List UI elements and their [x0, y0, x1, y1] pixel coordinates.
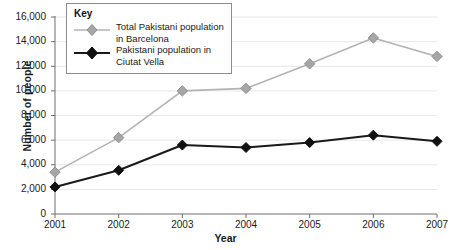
data-point [114, 165, 124, 175]
legend-label-total-barcelona: Total Pakistani population in Barcelona [116, 21, 232, 44]
x-axis-title: Year [0, 232, 451, 244]
data-point [432, 136, 442, 146]
y-tick-label: 12,000 [0, 60, 46, 71]
y-tick-label: 4,000 [0, 158, 46, 169]
data-point [50, 167, 60, 177]
legend-title: Key [74, 8, 92, 19]
data-point [305, 138, 315, 148]
line-chart: Number of people Year 02,0004,0006,0008,… [0, 0, 451, 250]
legend-swatch-black-diamond [74, 46, 110, 60]
y-tick-label: 2,000 [0, 183, 46, 194]
y-tick-label: 8,000 [0, 109, 46, 120]
legend-label-line2: Ciutat Vella [116, 56, 232, 68]
data-point [304, 59, 314, 69]
y-tick-label: 16,000 [0, 11, 46, 22]
data-point [432, 51, 442, 61]
x-tick-label: 2005 [288, 219, 332, 230]
data-point [368, 130, 378, 140]
legend-label-line1: Pakistani population in [116, 44, 232, 56]
x-tick-label: 2001 [33, 219, 77, 230]
y-tick-label: 0 [0, 208, 46, 219]
y-tick-label: 14,000 [0, 35, 46, 46]
data-point [241, 143, 251, 153]
data-point [177, 140, 187, 150]
data-point [241, 83, 251, 93]
legend-label-ciutat-vella: Pakistani population in Ciutat Vella [116, 44, 232, 67]
x-tick-label: 2002 [97, 219, 141, 230]
legend-label-line1: Total Pakistani population [116, 21, 232, 33]
x-tick-label: 2006 [351, 219, 395, 230]
x-tick-label: 2004 [224, 219, 268, 230]
y-tick-label: 6,000 [0, 134, 46, 145]
data-point [50, 182, 60, 192]
x-tick-label: 2003 [160, 219, 204, 230]
legend-label-line2: in Barcelona [116, 33, 232, 45]
x-tick-label: 2007 [415, 219, 451, 230]
chart-legend: Key Total Pakistani population in Barcel… [66, 3, 232, 74]
y-tick-label: 10,000 [0, 84, 46, 95]
y-axis-title: Number of people [21, 36, 33, 176]
legend-swatch-grey-diamond [74, 23, 110, 37]
